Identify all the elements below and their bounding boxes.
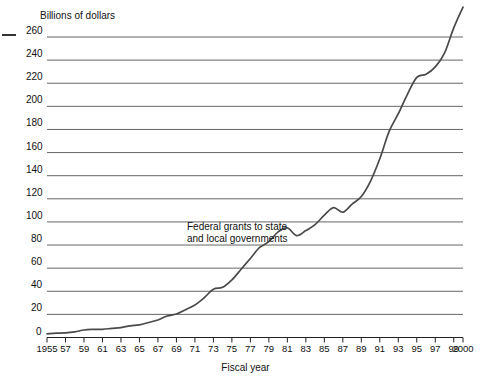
data-line-federal-grants: [47, 7, 463, 334]
x-axis-title: Fiscal year: [0, 362, 491, 373]
y-tick-label: 240: [26, 49, 43, 59]
y-tick-label: 0: [36, 327, 42, 337]
y-tick-label: 20: [31, 303, 42, 313]
y-tick-label: 180: [26, 118, 43, 128]
y-tick-label: 60: [31, 257, 42, 267]
y-tick-label: 80: [31, 234, 42, 244]
y-tick-label: 260: [26, 26, 43, 36]
y-tick-label: 40: [31, 280, 42, 290]
y-tick-label: 120: [26, 188, 43, 198]
x-axis-ticks: [47, 338, 463, 343]
gridlines: [47, 37, 463, 314]
y-tick-label: 100: [26, 211, 43, 221]
y-tick-label: 140: [26, 165, 43, 175]
chart-figure: Billions of dollars 26024022020018016014…: [0, 0, 491, 386]
y-tick-label: 200: [26, 95, 43, 105]
y-tick-label: 220: [26, 72, 43, 82]
x-tick-label: 2000: [443, 344, 483, 354]
series-annotation-line-2: and local governments: [187, 233, 288, 245]
plot-area: [0, 0, 491, 386]
y-tick-label: 160: [26, 142, 43, 152]
series-annotation-line-1: Federal grants to state: [187, 221, 287, 233]
